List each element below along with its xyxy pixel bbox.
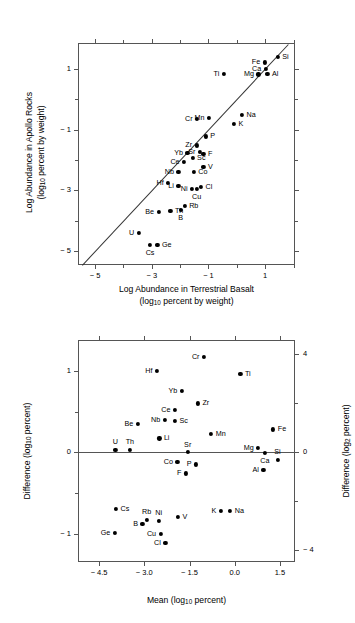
bottom-panel-x-axis-title: Mean (log10 percent) <box>78 595 295 607</box>
x-tick-label: 1.5 <box>275 569 285 577</box>
x-tick-major-top <box>208 39 209 43</box>
y-tick-label: − 1 <box>56 530 71 538</box>
x-tick-label: − 4.5 <box>91 569 108 577</box>
right-y-tick-minor <box>295 403 298 404</box>
x-tick-label: − 3 <box>146 272 157 280</box>
data-point-label: Th <box>175 208 183 215</box>
x-tick-label: − 5 <box>90 272 101 280</box>
x-tick-minor-top <box>237 40 238 43</box>
data-point-label: Ca <box>260 457 269 464</box>
data-point-label: Cr <box>185 115 193 122</box>
x-tick-major <box>190 562 191 566</box>
x-tick-major <box>265 265 266 269</box>
data-point-label: U <box>129 229 134 236</box>
data-point-label: Mn <box>216 430 226 437</box>
data-point-label: F <box>208 150 212 157</box>
right-y-tick-minor <box>295 501 298 502</box>
x-axis-title-text: Mean (log10 percent) <box>147 595 226 605</box>
right-y-tick-major <box>295 130 299 131</box>
data-point-label: Nb <box>151 416 160 423</box>
data-point-label: Cl <box>154 540 161 547</box>
x-tick-major <box>95 265 96 269</box>
data-point-label: Sr <box>184 441 191 448</box>
data-point-label: Na <box>235 507 244 514</box>
data-point-label: Rb <box>142 508 151 515</box>
data-point-label: Zr <box>202 400 209 407</box>
data-point-label: Ni <box>155 509 162 516</box>
x-tick-major <box>144 562 145 566</box>
data-point-label: Co <box>198 169 207 176</box>
data-point-label: F <box>177 470 181 477</box>
right-y-tick-minor <box>295 99 298 100</box>
x-tick-minor <box>123 265 124 268</box>
x-tick-major <box>99 562 100 566</box>
y-tick-minor <box>75 99 78 100</box>
y-tick-minor <box>75 493 78 494</box>
data-point-label: Be <box>124 420 133 427</box>
data-point-label: Al <box>252 467 258 474</box>
data-point-label: Ni <box>181 185 188 192</box>
x-tick-major-top <box>265 39 266 43</box>
x-tick-label: − 3.0 <box>136 569 153 577</box>
x-tick-major <box>208 265 209 269</box>
bottom-panel: − 4.5− 3.0− 1.50.01.510− 140− 4 CrHfTiYb… <box>0 311 355 623</box>
y-tick-label: − 3 <box>56 187 71 195</box>
y-tick-label: 1 <box>56 367 71 375</box>
data-point-label: Ge <box>162 242 172 249</box>
y-tick-major <box>74 251 78 252</box>
x-tick-minor-top <box>180 40 181 43</box>
right-y-tick-major <box>295 251 299 252</box>
y-tick-major <box>74 69 78 70</box>
data-point-label: K <box>239 121 244 128</box>
data-point-label: Cu <box>147 530 156 537</box>
top-panel-x-axis-title: Log Abundance in Terrestrial Basalt (log… <box>78 284 295 307</box>
data-point-label: Mg <box>244 445 254 452</box>
data-point-label: K <box>212 507 217 514</box>
right-y-tick-label: 4 <box>303 350 323 358</box>
right-y-tick-minor <box>295 160 298 161</box>
y-tick-minor <box>75 221 78 222</box>
data-point-label: Cs <box>120 506 129 513</box>
right-y-tick-minor <box>295 221 298 222</box>
x-tick-major-top <box>190 336 191 340</box>
x-tick-major-top <box>144 336 145 340</box>
x-tick-minor-top <box>123 40 124 43</box>
y-tick-minor <box>75 412 78 413</box>
x-tick-major-top <box>95 39 96 43</box>
data-point-label: Si <box>282 53 288 60</box>
x-tick-major <box>235 562 236 566</box>
y-tick-major <box>74 534 78 535</box>
data-point-label: Li <box>168 182 174 189</box>
data-point-label: U <box>113 438 118 445</box>
data-point-label: Nb <box>165 169 174 176</box>
data-point-label: Ge <box>101 529 111 536</box>
right-y-tick-label: 0 <box>303 448 323 456</box>
data-point-label: Hf <box>157 179 164 186</box>
y-tick-major <box>74 130 78 131</box>
figure-root: − 5− 3− 111− 1− 3− 5 SiFeCaAlMgTiNaKMnCr… <box>0 0 355 623</box>
top-panel-y-axis-title: Log Abundance in Apollo Rocks (log10 per… <box>24 40 47 265</box>
data-point-label: B <box>133 520 138 527</box>
y-tick-label: − 5 <box>56 248 71 256</box>
y-axis-title-line2: (log10 percent by weight) <box>36 105 46 199</box>
x-tick-label: 0.0 <box>230 569 240 577</box>
bottom-panel-right-y-axis-title: Difference (log2 percent) <box>341 340 353 562</box>
data-point-label: Sc <box>180 417 188 424</box>
data-point-label: Cs <box>146 249 155 256</box>
data-point-label: V <box>183 514 188 521</box>
x-tick-major-top <box>99 336 100 340</box>
y-tick-minor <box>75 160 78 161</box>
data-point-label: Li <box>164 435 170 442</box>
data-point-label: Th <box>126 438 134 445</box>
data-point-label: Sc <box>197 155 205 162</box>
x-tick-minor <box>180 265 181 268</box>
data-point-label: P <box>187 461 192 468</box>
data-point-label: Yb <box>168 388 177 395</box>
data-point-label: Cu <box>192 193 201 200</box>
data-point-label: Na <box>246 111 255 118</box>
y-tick-major <box>74 371 78 372</box>
data-point-label: V <box>208 163 213 170</box>
data-point-label: Fe <box>278 426 286 433</box>
data-point-label: Cl <box>206 183 213 190</box>
data-point-label: Co <box>164 458 173 465</box>
